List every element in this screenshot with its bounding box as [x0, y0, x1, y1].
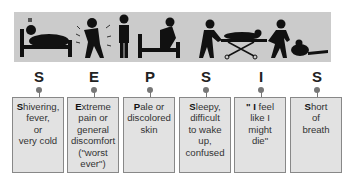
symptom-text: confused — [186, 147, 225, 158]
symptom-text: or — [34, 124, 43, 135]
acronym-letter: E — [67, 68, 121, 86]
lead-letter: " I — [246, 101, 256, 112]
acronym-letter: S — [12, 68, 66, 86]
symptom-text: feel — [256, 101, 274, 112]
symptom-text: ("worst — [78, 147, 108, 158]
patient-on-stretcher-icon — [199, 20, 267, 60]
symptom-text: up, — [198, 135, 211, 146]
symptom-box: " I feel like I might die" — [234, 97, 286, 173]
person-pushing-stretcher-icon — [268, 20, 290, 59]
symptom-text: discomfort — [71, 135, 115, 146]
symptom-text: like I — [250, 112, 270, 123]
symptom-text: might — [248, 124, 271, 135]
symptom-text: hivering, — [23, 101, 59, 112]
symptom-text: to wake — [188, 124, 221, 135]
symptom-text: hort — [311, 101, 328, 112]
acronym-letter: I — [234, 68, 288, 86]
person-in-pain-icon — [76, 15, 129, 59]
symptom-box: Extreme pain or general discomfort ("wor… — [67, 97, 119, 173]
illustration-banner — [14, 12, 331, 62]
symptom-text: of — [312, 112, 320, 123]
symptom-text: breath — [302, 124, 329, 135]
symptom-text: fever, — [26, 112, 49, 123]
symptom-box: Sleepy, difficult to wake up, confused — [179, 97, 231, 173]
symptom-text: ale or — [140, 101, 164, 112]
symptom-box: Pale or discolored skin — [123, 97, 175, 173]
person-collapsed-icon — [291, 40, 328, 57]
symptom-text: xtreme — [82, 101, 111, 112]
symptom-text: very cold — [19, 135, 57, 146]
acronym-letter: S — [290, 68, 344, 86]
acronym-letter: S — [179, 68, 233, 86]
symptom-text: skin — [140, 124, 157, 135]
symptom-text: discolored — [127, 112, 171, 123]
symptom-text: general — [77, 124, 109, 135]
symptom-box: Shivering, fever, or very cold — [12, 97, 64, 173]
sepsis-symptoms-illustration — [14, 12, 331, 62]
symptom-text: leepy, — [196, 101, 221, 112]
symptom-box: Short of breath — [290, 97, 342, 173]
person-sitting-on-bed-icon — [138, 18, 180, 59]
symptom-text: difficult — [190, 112, 220, 123]
symptom-text: pain or — [78, 112, 107, 123]
person-in-bed-shivering-icon — [20, 18, 72, 57]
acronym-letter: P — [123, 68, 177, 86]
symptom-text: die" — [252, 135, 268, 146]
symptom-text: ever") — [80, 158, 105, 169]
